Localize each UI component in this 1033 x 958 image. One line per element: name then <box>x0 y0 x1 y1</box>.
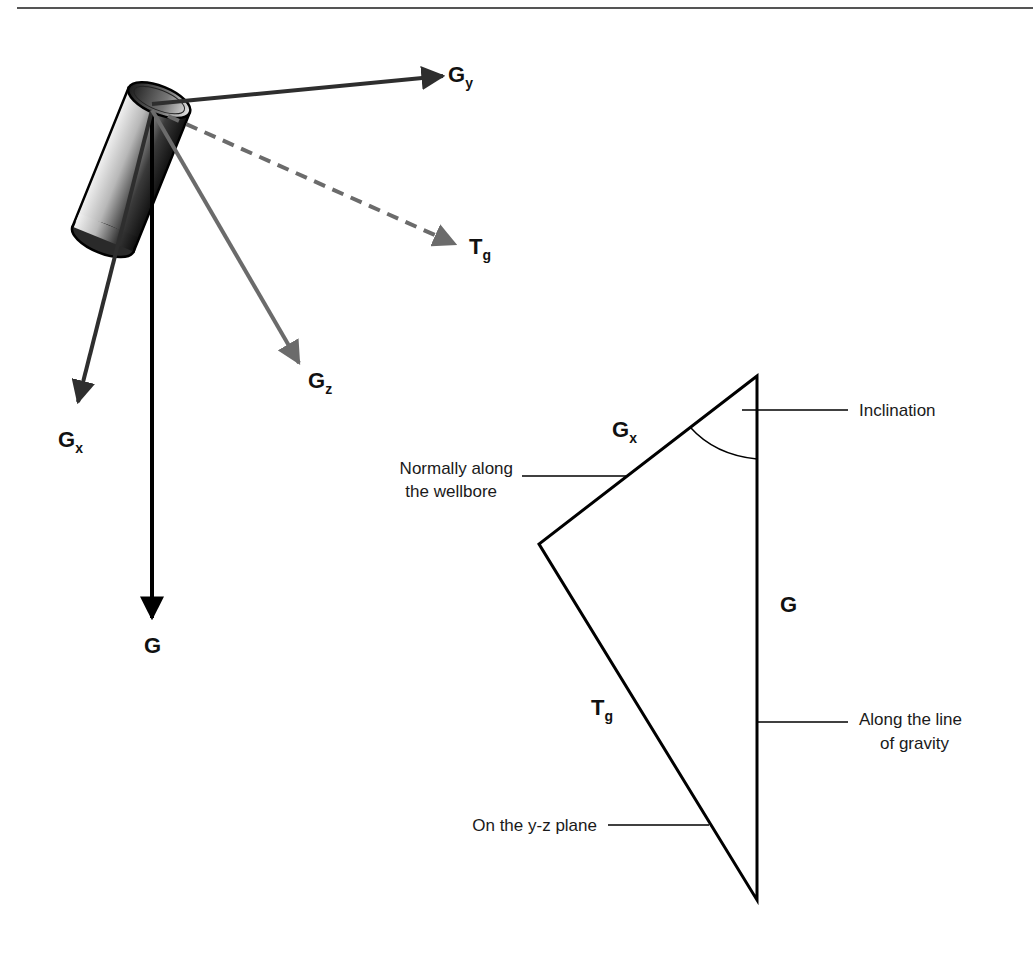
label-gz: Gz <box>308 368 332 397</box>
callout-wellbore-1: Normally along <box>400 459 513 478</box>
gy-vector-arrow <box>152 76 443 104</box>
label-g-triangle: G <box>780 592 797 617</box>
label-gx-triangle: Gx <box>612 417 637 446</box>
callout-gravity-2: of gravity <box>880 734 949 753</box>
label-gx-3d: Gx <box>58 427 83 456</box>
tg-vector-arrow <box>168 116 455 244</box>
label-tg-3d: Tg <box>469 234 491 263</box>
callout-yz-plane: On the y-z plane <box>472 816 597 835</box>
label-g-3d: G <box>144 633 161 658</box>
label-tg-triangle: Tg <box>591 695 613 724</box>
inclination-arc <box>690 427 757 459</box>
label-gy: Gy <box>448 62 473 91</box>
callout-wellbore-2: the wellbore <box>405 482 497 501</box>
callout-gravity-1: Along the line <box>859 710 962 729</box>
gravity-vector-diagram: Gy Tg Gz Gx G Gx G Tg Inclination Normal… <box>0 0 1033 958</box>
gz-vector-arrow <box>152 110 299 363</box>
callout-inclination: Inclination <box>859 401 936 420</box>
